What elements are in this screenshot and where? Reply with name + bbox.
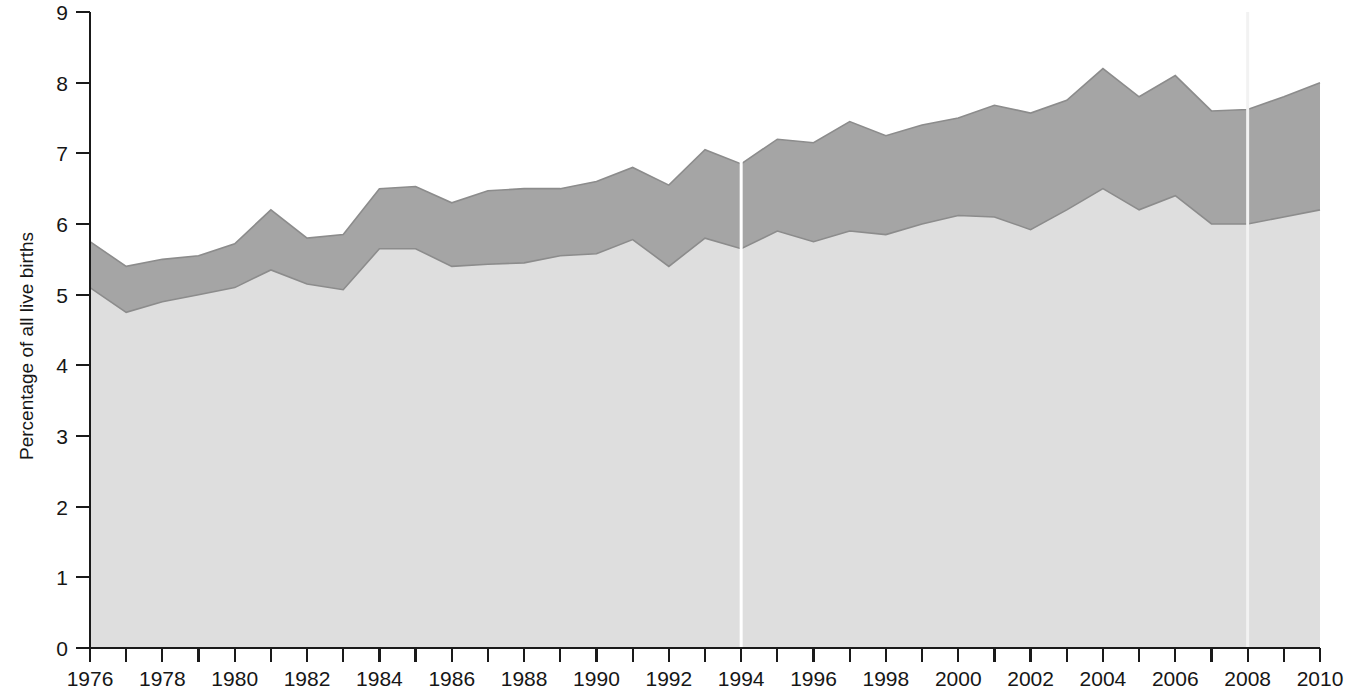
y-tick-label: 0 <box>56 637 68 660</box>
y-tick-label: 9 <box>56 1 68 24</box>
y-tick-label: 4 <box>56 354 68 377</box>
x-tick-label: 1978 <box>139 667 186 689</box>
x-tick-label: 1976 <box>67 667 114 689</box>
y-axis-tick-labels: 0123456789 <box>56 1 68 660</box>
x-tick-label: 2004 <box>1080 667 1127 689</box>
x-tick-label: 1992 <box>645 667 692 689</box>
x-tick-label: 1998 <box>863 667 910 689</box>
chart-plot-areas <box>90 69 1320 648</box>
x-tick-label: 2008 <box>1224 667 1271 689</box>
x-tick-label: 1986 <box>428 667 475 689</box>
y-tick-label: 1 <box>56 566 68 589</box>
x-tick-label: 1996 <box>790 667 837 689</box>
x-tick-label: 1990 <box>573 667 620 689</box>
y-tick-label: 5 <box>56 284 68 307</box>
x-tick-label: 2006 <box>1152 667 1199 689</box>
x-tick-label: 1980 <box>211 667 258 689</box>
x-axis-tick-labels: 1976197819801982198419861988199019921994… <box>67 667 1344 689</box>
y-tick-label: 7 <box>56 142 68 165</box>
x-tick-label: 2000 <box>935 667 982 689</box>
y-tick-label: 8 <box>56 72 68 95</box>
y-tick-label: 2 <box>56 496 68 519</box>
y-axis-title: Percentage of all live births <box>16 232 37 460</box>
y-tick-label: 3 <box>56 425 68 448</box>
y-tick-label: 6 <box>56 213 68 236</box>
x-tick-label: 2010 <box>1297 667 1344 689</box>
x-tick-label: 1982 <box>284 667 331 689</box>
x-tick-label: 1988 <box>501 667 548 689</box>
x-axis-ticks <box>90 648 1320 662</box>
x-tick-label: 1994 <box>718 667 765 689</box>
y-axis-ticks <box>76 12 90 648</box>
chart-container: 0123456789 19761978198019821984198619881… <box>0 0 1345 689</box>
x-tick-label: 1984 <box>356 667 403 689</box>
x-tick-label: 2002 <box>1007 667 1054 689</box>
area-chart: 0123456789 19761978198019821984198619881… <box>0 0 1345 689</box>
